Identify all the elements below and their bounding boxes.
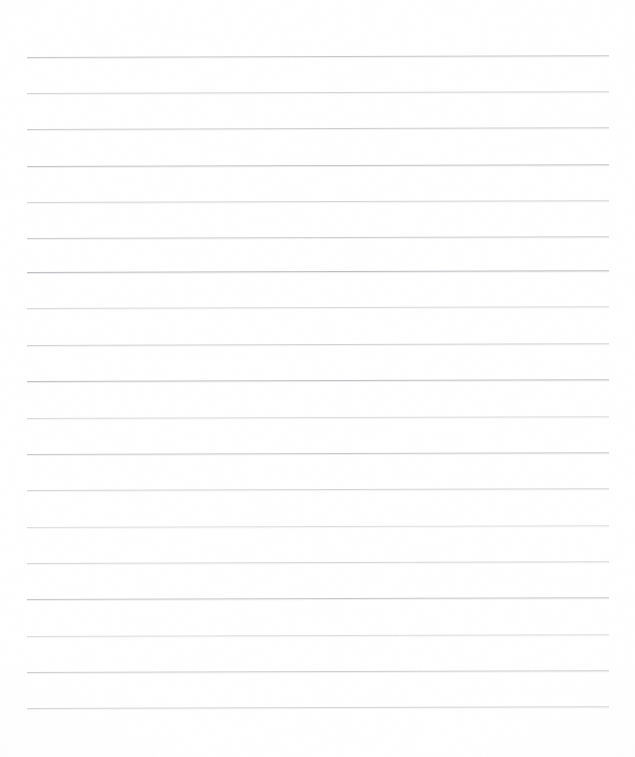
ruled-line: [27, 127, 609, 130]
ruled-line: [27, 164, 609, 167]
ruled-line: [27, 55, 609, 58]
ruled-line: [27, 416, 609, 419]
ruled-line: [27, 488, 609, 491]
ruled-line: [27, 236, 609, 239]
ruled-line: [27, 670, 609, 673]
ruled-line: [27, 379, 609, 382]
ruled-line: [27, 634, 609, 637]
ruled-line: [27, 91, 609, 94]
ruled-line: [27, 343, 609, 346]
scanned-page: [0, 0, 635, 757]
ruled-line: [27, 270, 609, 273]
ruled-line: [27, 561, 609, 564]
ruled-line: [27, 525, 609, 528]
ruled-line: [27, 200, 609, 203]
ruled-line: [27, 597, 609, 600]
ruled-line: [27, 452, 609, 455]
ruled-line: [27, 306, 609, 309]
ruled-line: [27, 706, 609, 709]
